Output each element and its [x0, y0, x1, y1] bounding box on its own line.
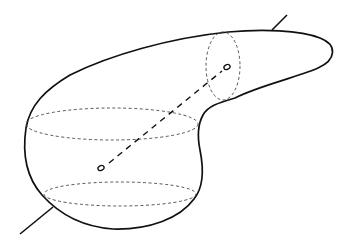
upper-point — [223, 63, 231, 70]
vertical-cross-section — [206, 32, 240, 100]
middle-cross-section — [26, 108, 198, 140]
bottom-cross-section — [44, 182, 196, 206]
lower-point — [97, 164, 105, 171]
axis-bottom-segment — [20, 207, 53, 234]
body-outline — [25, 30, 333, 229]
axis-top-segment — [272, 15, 287, 30]
diagram-canvas — [0, 0, 348, 247]
hidden-axis-segment — [109, 71, 222, 163]
